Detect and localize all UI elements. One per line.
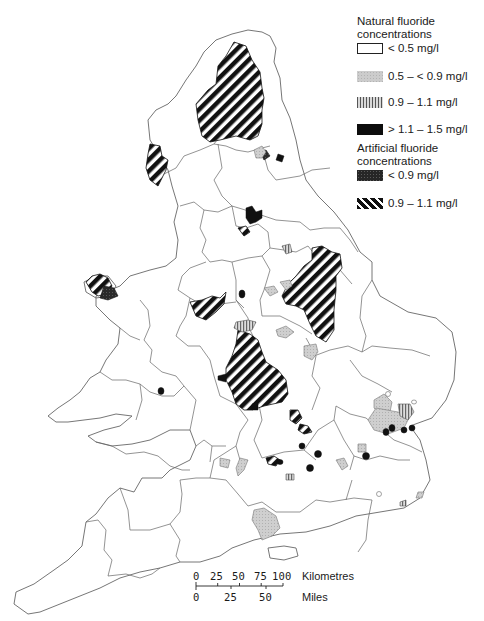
legend-label: < 0.5 mg/l [388,42,439,55]
region-northumbria [196,42,264,142]
scale-km-tick-0: 0 [193,570,200,582]
legend-artificial-title-2: concentrations [357,155,484,168]
swatch-dark-stipple [357,170,383,181]
region-northants [290,410,302,424]
artificial-fluoride-high [86,42,342,466]
region-shropshire [190,292,226,320]
scale-km-tick-50: 50 [232,570,245,582]
scale-km-tick-100: 100 [272,570,292,582]
swatch-vertical-hatch [357,97,383,108]
legend-item-artificial-0-9-1-1: 0.9 – 1.1 mg/l [357,197,484,209]
legend-item-artificial-lt-0-9: < 0.9 mg/l [357,169,484,181]
region-cumbria [146,144,168,186]
region-west-midlands [226,330,288,410]
swatch-light-grey-stipple [357,71,383,82]
scale-mile-tick-25: 25 [224,591,237,603]
legend-label: 0.9 – 1.1 mg/l [388,96,458,109]
region-beds [298,424,312,434]
map-legend: Natural fluoride concentrations < 0.5 mg… [357,15,484,209]
legend-label: 0.9 – 1.1 mg/l [388,197,458,210]
scale-bar [196,582,283,590]
legend-item-natural-gt-1-1: > 1.1 – 1.5 mg/l [357,123,484,135]
scale-mile-tick-50: 50 [259,591,272,603]
scale-km-tick-75: 75 [254,570,267,582]
swatch-solid-black [357,124,383,135]
region-lincolnshire-notts [282,246,342,342]
legend-natural-title-1: Natural fluoride [357,15,484,28]
legend-item-natural-0-9-1-1: 0.9 – 1.1 mg/l [357,96,484,108]
legend-item-natural-0-5-0-9: 0.5 – < 0.9 mg/l [357,70,484,82]
scale-km-tick-25: 25 [210,570,223,582]
legend-label: > 1.1 – 1.5 mg/l [388,123,468,136]
swatch-diagonal-stripes [357,198,383,209]
legend-item-natural-lt-0-5: < 0.5 mg/l [357,42,484,54]
swatch-white-outline [357,43,383,54]
legend-natural-title-2: concentrations [357,28,484,41]
legend-label: < 0.9 mg/l [388,169,439,182]
legend-label: 0.5 – < 0.9 mg/l [388,70,468,83]
legend-artificial-title-1: Artificial fluoride [357,142,484,155]
scale-mile-unit: Miles [302,591,328,603]
artificial-fluoride-low [100,150,270,300]
scale-mile-tick-0: 0 [193,591,200,603]
scale-km-unit: Kilometres [302,570,354,582]
